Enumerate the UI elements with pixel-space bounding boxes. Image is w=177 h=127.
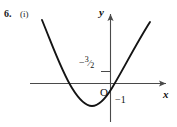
fraction-denominator: 2 (90, 62, 94, 70)
parabola-curve (42, 20, 150, 106)
origin-label: O (100, 86, 108, 98)
x-axis (30, 80, 166, 86)
y-axis (107, 14, 113, 122)
fraction-numerator: 3 (85, 56, 89, 64)
vertex-value-label: −3⁄2 (79, 58, 94, 68)
x-axis-label: x (163, 88, 169, 100)
math-figure: 6. (i) y x O −1 −3⁄2 (0, 0, 177, 127)
y-intercept-label: −1 (115, 94, 126, 105)
y-axis-label: y (99, 6, 104, 18)
fraction-three-halves: 3⁄2 (85, 59, 95, 68)
